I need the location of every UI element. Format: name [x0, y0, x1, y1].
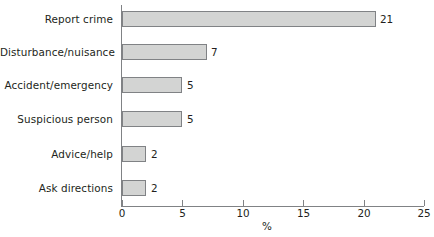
bar-row: Advice/help 2 — [0, 145, 434, 163]
x-axis-tick-label: 0 — [107, 207, 137, 219]
x-axis-tick-label: 5 — [168, 207, 198, 219]
bar — [122, 11, 376, 27]
x-axis-tick-label: 25 — [409, 207, 434, 219]
x-axis-tick — [243, 200, 244, 206]
x-axis-tick-label: 15 — [289, 207, 319, 219]
bar-row: Accident/emergency 5 — [0, 76, 434, 94]
bar-value-label: 5 — [187, 110, 194, 128]
x-axis-tick — [364, 200, 365, 206]
bar-row: Report crime 21 — [0, 10, 434, 28]
x-axis-tick — [182, 200, 183, 206]
category-label: Disturbance/nuisance — [0, 43, 113, 61]
bar-value-label: 2 — [151, 145, 158, 163]
x-axis-tick — [122, 200, 123, 206]
bar-value-label: 2 — [151, 179, 158, 197]
x-axis-tick — [424, 200, 425, 206]
x-axis-tick — [303, 200, 304, 206]
bar — [122, 111, 182, 127]
category-label: Accident/emergency — [0, 76, 113, 94]
x-axis-tick-label: 10 — [228, 207, 258, 219]
bar-value-label: 7 — [211, 43, 218, 61]
category-label: Suspicious person — [0, 110, 113, 128]
bar-value-label: 21 — [380, 10, 393, 28]
bar-row: Suspicious person 5 — [0, 110, 434, 128]
bar-rows: Report crime 21 Disturbance/nuisance 7 A… — [0, 0, 434, 205]
bar-row: Disturbance/nuisance 7 — [0, 43, 434, 61]
category-label: Advice/help — [0, 145, 113, 163]
bar-row: Ask directions 2 — [0, 179, 434, 197]
bar — [122, 180, 146, 196]
bar-value-label: 5 — [187, 76, 194, 94]
category-label: Report crime — [0, 10, 113, 28]
bar-chart: Report crime 21 Disturbance/nuisance 7 A… — [0, 0, 434, 237]
category-label: Ask directions — [0, 179, 113, 197]
x-axis-title: % — [0, 220, 434, 232]
x-axis-tick-label: 20 — [349, 207, 379, 219]
x-axis-title-text: % — [262, 220, 272, 232]
bar — [122, 146, 146, 162]
bar — [122, 44, 207, 60]
bar — [122, 77, 182, 93]
plot-area: Report crime 21 Disturbance/nuisance 7 A… — [0, 0, 434, 237]
